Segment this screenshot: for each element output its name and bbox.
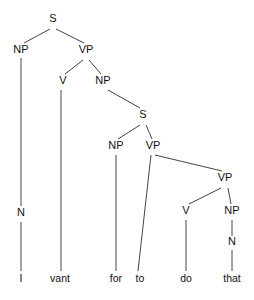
edge-s2-vp2 [146,125,152,139]
word-w5: do [180,272,192,284]
node-vp2: VP [146,139,161,151]
node-np3: NP [108,139,123,151]
node-v2: V [182,204,190,216]
syntax-tree-diagram: SNPVPVNPSNPVPVPVNPNN Ivantfortodothat [0,0,254,300]
tree-words: Ivantfortodothat [20,272,241,284]
edge-vp1-v1 [65,60,83,74]
node-vp3: VP [218,171,233,183]
node-vp1: VP [79,43,94,55]
edge-s1-vp1 [56,29,84,43]
edge-vp1-np2 [89,60,101,74]
edge-vp3-v2 [189,188,221,204]
edge-s2-np3 [118,125,140,139]
node-s2: S [139,108,146,120]
word-w1: I [20,272,23,284]
tree-nodes: SNPVPVNPSNPVPVPVNPNN [13,12,239,247]
node-np2: NP [95,74,110,86]
edge-np2-s2 [108,90,140,108]
word-w2: vant [50,272,70,284]
edge-vp3-np4 [228,188,231,204]
edge-vp2-vp3 [155,155,222,171]
node-n1: N [17,206,25,218]
node-np1: NP [13,43,28,55]
node-v1: V [59,74,67,86]
word-w6: that [223,272,241,284]
node-np4: NP [224,204,239,216]
edge-vp2-w4 [138,155,151,271]
tree-edges [21,29,232,271]
edge-s1-np1 [24,29,50,43]
word-w3: for [110,272,123,284]
node-s1: S [49,12,56,24]
word-w4: to [136,272,145,284]
node-n2: N [228,235,236,247]
